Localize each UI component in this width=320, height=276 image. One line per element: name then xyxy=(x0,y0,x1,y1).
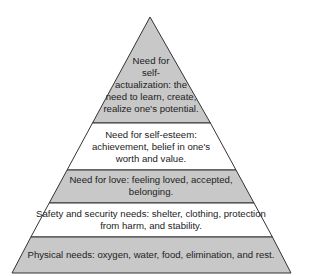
tier-label-self-actualization: Need for self- actualization: the need t… xyxy=(90,55,212,115)
label-line: realize one's potential. xyxy=(90,103,212,115)
label-line: need to learn, create, xyxy=(90,91,212,103)
label-line: Need for xyxy=(90,55,212,67)
label-line: worth and value. xyxy=(80,153,222,165)
label-line: Physical needs: oxygen, water, food, eli… xyxy=(20,249,282,261)
label-line: Need for self-esteem: xyxy=(80,129,222,141)
label-line: from harm, and stability. xyxy=(35,220,267,232)
tier-label-safety: Safety and security needs: shelter, clot… xyxy=(35,208,267,232)
label-line: Need for love: feeling loved, accepted, xyxy=(55,174,247,186)
tier-label-physical: Physical needs: oxygen, water, food, eli… xyxy=(20,249,282,261)
label-line: belonging. xyxy=(55,186,247,198)
tier-label-self-esteem: Need for self-esteem: achievement, belie… xyxy=(80,129,222,165)
label-line: achievement, belief in one's xyxy=(80,141,222,153)
label-line: self- xyxy=(90,67,212,79)
label-line: Safety and security needs: shelter, clot… xyxy=(35,208,267,220)
label-line: actualization: the xyxy=(90,79,212,91)
tier-label-love: Need for love: feeling loved, accepted, … xyxy=(55,174,247,198)
